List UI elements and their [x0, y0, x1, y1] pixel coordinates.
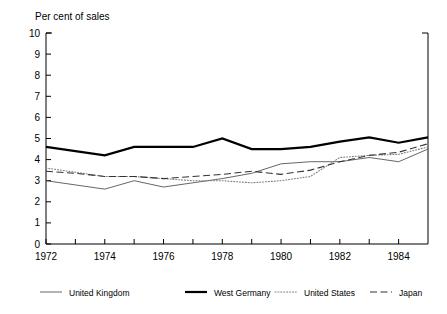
x-tick-label: 1974 — [94, 251, 117, 262]
x-tick-label: 1982 — [329, 251, 352, 262]
x-tick-label: 1976 — [152, 251, 175, 262]
series-line-japan — [46, 144, 428, 179]
x-tick-label: 1980 — [270, 251, 293, 262]
y-tick-label: 7 — [34, 91, 40, 102]
line-chart: Per cent of sales 012345678910 197219741… — [0, 0, 447, 314]
y-tick-label: 6 — [34, 112, 40, 123]
y-tick-label: 0 — [34, 239, 40, 250]
chart-legend: United KingdomWest GermanyUnited StatesJ… — [40, 288, 422, 298]
y-tick-label: 4 — [34, 154, 40, 165]
y-tick-label: 2 — [34, 196, 40, 207]
series-line-united-states — [46, 147, 428, 183]
chart-container: Per cent of sales 012345678910 197219741… — [0, 0, 447, 314]
y-tick-label: 8 — [34, 70, 40, 81]
x-tick-label: 1978 — [211, 251, 234, 262]
y-tick-label: 5 — [34, 133, 40, 144]
data-series-group — [46, 137, 428, 189]
y-tick-label: 1 — [34, 217, 40, 228]
legend-label: West Germany — [214, 288, 271, 298]
x-axis-ticks: 1972197419761978198019821984 — [35, 239, 410, 262]
y-tick-label: 9 — [34, 49, 40, 60]
legend-label: United States — [304, 288, 355, 298]
series-line-west-germany — [46, 137, 428, 155]
x-tick-label: 1972 — [35, 251, 58, 262]
y-tick-label: 3 — [34, 175, 40, 186]
chart-title: Per cent of sales — [35, 11, 109, 22]
y-axis-ticks: 012345678910 — [29, 28, 51, 250]
legend-label: Japan — [399, 288, 422, 298]
legend-label: United Kingdom — [69, 288, 129, 298]
x-tick-label: 1984 — [387, 251, 410, 262]
y-tick-label: 10 — [29, 28, 41, 39]
